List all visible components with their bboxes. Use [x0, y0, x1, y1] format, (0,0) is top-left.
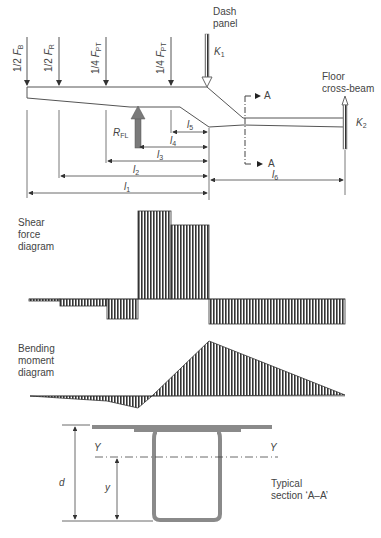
neutral-axis-label-left: Y — [94, 442, 102, 453]
k1-label: K1 — [214, 46, 225, 58]
section-caption: Typicalsection ‘A–A’ — [271, 478, 328, 501]
dimension-lines — [29, 132, 343, 193]
typical-section-a-a — [92, 425, 272, 520]
height-label-y: y — [104, 482, 111, 493]
dim-l3: l3 — [157, 149, 163, 161]
load-label-fr: 1/2 FR — [43, 44, 55, 72]
reaction-label: RFL — [113, 127, 129, 139]
dash-panel-label: Dashpanel — [213, 6, 237, 29]
reaction-arrow-rfl — [131, 106, 145, 148]
dim-l4: l4 — [170, 135, 176, 147]
moment-diagram-title: Bendingmomentdiagram — [18, 343, 55, 378]
beam-outline — [27, 87, 345, 127]
shear-diagram-title: Shearforcediagram — [18, 217, 54, 252]
neutral-axis-label-right: Y — [270, 442, 278, 453]
dimension-extensions — [27, 110, 345, 200]
dash-panel-spring-k1 — [202, 34, 212, 87]
k2-label: K2 — [356, 117, 367, 129]
dim-l5: l5 — [187, 119, 193, 131]
load-label-fpt-2: 1/4 FPT — [155, 42, 167, 74]
floor-beam-label: Floorcross-beam — [322, 71, 374, 94]
dim-l6: l6 — [272, 169, 278, 181]
dim-l2: l2 — [133, 164, 139, 176]
depth-label-d: d — [59, 477, 65, 488]
floor-beam-spring-k2 — [342, 96, 348, 149]
vehicle-floor-beam-diagram: 1/2 FB 1/2 FR 1/4 FPT 1/4 FPT Dashpanel … — [0, 0, 381, 538]
bending-moment-diagram — [30, 341, 345, 408]
load-label-fb: 1/2 FB — [12, 44, 24, 72]
section-marker-top: A — [264, 90, 271, 101]
section-dimensions — [62, 425, 153, 521]
load-label-fpt-1: 1/4 FPT — [90, 42, 102, 74]
dim-l1: l1 — [124, 181, 130, 193]
section-cut-line — [245, 93, 263, 167]
section-marker-bottom: A — [268, 158, 275, 169]
shear-force-diagram — [29, 211, 345, 324]
